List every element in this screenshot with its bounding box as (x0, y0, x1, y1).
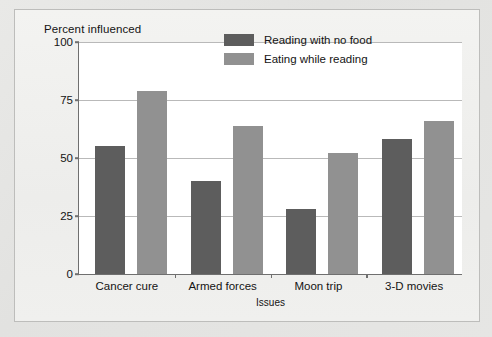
legend-swatch-icon (224, 34, 254, 46)
y-tick-label: 100 (54, 36, 73, 48)
legend-item: Eating while reading (224, 49, 372, 68)
bar-group (89, 42, 173, 274)
y-tick-label: 25 (60, 210, 73, 222)
chart-panel: Percent influenced 0255075100 Cancer cur… (14, 9, 480, 322)
bar (286, 209, 316, 274)
bar-group (185, 42, 269, 274)
bar-group (376, 42, 460, 274)
legend-label: Eating while reading (264, 53, 368, 65)
bar (95, 146, 125, 274)
y-tick-label: 0 (67, 268, 73, 280)
x-category-label: 3-D movies (385, 280, 443, 292)
legend-swatch-icon (224, 53, 254, 65)
legend: Reading with no foodEating while reading (224, 30, 372, 68)
bar-series-container (79, 42, 462, 274)
bar (328, 153, 358, 274)
x-tick-mark (175, 274, 176, 278)
bar (137, 91, 167, 274)
plot-area: 0255075100 Cancer cureArmed forcesMoon t… (78, 42, 462, 275)
legend-label: Reading with no food (264, 34, 372, 46)
x-category-label: Moon trip (294, 280, 342, 292)
bar (191, 181, 221, 274)
scanned-page: Percent influenced 0255075100 Cancer cur… (0, 0, 492, 337)
x-category-label: Armed forces (188, 280, 256, 292)
x-tick-mark (366, 274, 367, 278)
x-category-label: Cancer cure (96, 280, 159, 292)
bar-group (280, 42, 364, 274)
y-tick-label: 75 (60, 94, 73, 106)
y-axis-title: Percent influenced (44, 23, 141, 35)
bar-chart: Percent influenced 0255075100 Cancer cur… (15, 10, 479, 321)
x-axis-title: Issues (256, 297, 285, 308)
bar (233, 126, 263, 274)
x-tick-mark (271, 274, 272, 278)
bar (424, 121, 454, 274)
bar (382, 139, 412, 274)
y-tick-label: 50 (60, 152, 73, 164)
legend-item: Reading with no food (224, 30, 372, 49)
